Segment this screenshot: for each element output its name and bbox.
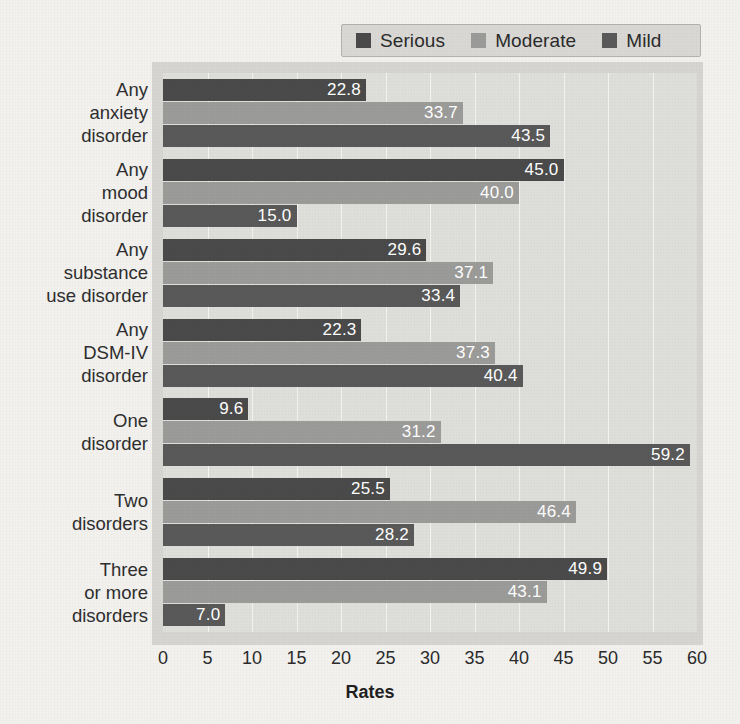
bar-value-label: 9.6	[219, 399, 243, 419]
x-tick-label: 40	[509, 648, 529, 669]
bar-value-label: 33.7	[424, 103, 458, 123]
bar-value-label: 29.6	[388, 240, 422, 260]
x-tick-label: 50	[598, 648, 618, 669]
plot-frame: 22.833.743.545.040.015.029.637.133.422.3…	[152, 62, 703, 645]
bar-value-label: 43.5	[511, 126, 545, 146]
category-label-line: disorder	[8, 124, 148, 147]
bar-row: 37.3	[163, 342, 697, 364]
bar-mild: 33.4	[163, 285, 460, 307]
legend-item-mild: Mild	[602, 30, 661, 52]
bar-moderate: 40.0	[163, 182, 519, 204]
category-label-line: mood	[8, 181, 148, 204]
bar-value-label: 22.3	[323, 320, 357, 340]
category-label-line: anxiety	[8, 101, 148, 124]
bar-value-label: 25.5	[351, 479, 385, 499]
category-label-line: use disorder	[8, 284, 148, 307]
category-label-line: One	[8, 409, 148, 432]
x-tick-label: 55	[642, 648, 662, 669]
x-tick-label: 30	[420, 648, 440, 669]
bar-mild: 40.4	[163, 365, 523, 387]
category-label: Anysubstanceuse disorder	[8, 238, 148, 307]
bar-value-label: 15.0	[258, 206, 292, 226]
bar-row: 40.0	[163, 182, 697, 204]
bar-row: 15.0	[163, 205, 697, 227]
x-tick-label: 25	[375, 648, 395, 669]
category-label-line: disorders	[8, 604, 148, 627]
category-label: Twodisorders	[8, 489, 148, 535]
legend-item-label: Moderate	[495, 30, 576, 52]
bar-row: 7.0	[163, 604, 697, 626]
bar-row: 49.9	[163, 558, 697, 580]
category-label: Anyanxietydisorder	[8, 78, 148, 147]
bar-value-label: 37.1	[454, 263, 488, 283]
category-label: AnyDSM-IVdisorder	[8, 318, 148, 387]
category-label-line: or more	[8, 581, 148, 604]
bar-value-label: 33.4	[421, 286, 455, 306]
category-label-line: substance	[8, 261, 148, 284]
bar-value-label: 31.2	[402, 422, 436, 442]
category-label-line: disorder	[8, 432, 148, 455]
category-label: Onedisorder	[8, 409, 148, 455]
x-axis-ticks: 051015202530354045505560	[152, 648, 703, 674]
bar-row: 22.8	[163, 79, 697, 101]
bar-serious: 22.3	[163, 319, 361, 341]
category-label-line: DSM-IV	[8, 341, 148, 364]
category-label: Anymooddisorder	[8, 158, 148, 227]
legend-swatch-icon	[471, 33, 486, 48]
bar-mild: 28.2	[163, 524, 414, 546]
legend-item-label: Mild	[626, 30, 661, 52]
bar-row: 46.4	[163, 501, 697, 523]
category-label-line: disorder	[8, 204, 148, 227]
category-label-line: Any	[8, 78, 148, 101]
bar-row: 31.2	[163, 421, 697, 443]
x-tick-label: 15	[286, 648, 306, 669]
bar-value-label: 59.2	[651, 445, 685, 465]
bar-row: 33.7	[163, 102, 697, 124]
bar-serious: 9.6	[163, 398, 248, 420]
x-tick-label: 0	[158, 648, 168, 669]
bar-row: 37.1	[163, 262, 697, 284]
category-label-line: Three	[8, 558, 148, 581]
bar-row: 40.4	[163, 365, 697, 387]
bar-moderate: 37.1	[163, 262, 493, 284]
bar-mild: 15.0	[163, 205, 297, 227]
bar-mild: 43.5	[163, 125, 550, 147]
category-label-line: disorder	[8, 364, 148, 387]
category-label-line: Any	[8, 318, 148, 341]
bar-serious: 25.5	[163, 478, 390, 500]
x-tick-label: 5	[202, 648, 212, 669]
bar-value-label: 43.1	[508, 582, 542, 602]
bar-value-label: 22.8	[327, 80, 361, 100]
bar-moderate: 46.4	[163, 501, 576, 523]
legend-item-serious: Serious	[356, 30, 445, 52]
bar-moderate: 31.2	[163, 421, 441, 443]
bar-value-label: 7.0	[196, 605, 220, 625]
bar-row: 59.2	[163, 444, 697, 466]
bar-serious: 29.6	[163, 239, 426, 261]
bar-row: 29.6	[163, 239, 697, 261]
bar-serious: 22.8	[163, 79, 366, 101]
bar-moderate: 43.1	[163, 581, 547, 603]
bar-moderate: 33.7	[163, 102, 463, 124]
bar-value-label: 46.4	[537, 502, 571, 522]
x-tick-label: 60	[687, 648, 707, 669]
legend-swatch-icon	[356, 33, 371, 48]
x-tick-label: 35	[464, 648, 484, 669]
plot-area: 22.833.743.545.040.015.029.637.133.422.3…	[163, 73, 697, 632]
category-label-line: disorders	[8, 512, 148, 535]
bar-row: 45.0	[163, 159, 697, 181]
bar-row: 43.5	[163, 125, 697, 147]
bar-value-label: 45.0	[525, 160, 559, 180]
bar-row: 33.4	[163, 285, 697, 307]
bar-row: 28.2	[163, 524, 697, 546]
bar-mild: 59.2	[163, 444, 690, 466]
legend-item-moderate: Moderate	[471, 30, 576, 52]
bar-row: 43.1	[163, 581, 697, 603]
bar-serious: 49.9	[163, 558, 607, 580]
bar-row: 9.6	[163, 398, 697, 420]
bar-row: 25.5	[163, 478, 697, 500]
bar-value-label: 40.4	[484, 366, 518, 386]
chart-legend: SeriousModerateMild	[341, 24, 701, 57]
bar-row: 22.3	[163, 319, 697, 341]
category-label-line: Any	[8, 238, 148, 261]
